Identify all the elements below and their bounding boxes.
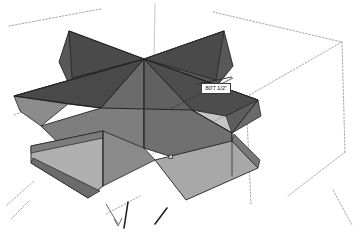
axis-stub-blue: [124, 202, 128, 228]
guide-segment-lower-left: [7, 181, 34, 205]
guide-segment-top-left: [9, 9, 101, 26]
model-canvas[interactable]: [0, 0, 361, 235]
axis-stub-green-arrow: [106, 204, 118, 224]
measurement-readout-box[interactable]: 80'7 1/2": [201, 83, 231, 94]
axis-stub-vertical-top: [154, 3, 155, 62]
guide-segment-right-vertical: [342, 42, 345, 152]
guide-segment-bottom-center: [106, 196, 140, 214]
endpoint-marker[interactable]: [169, 155, 173, 159]
guide-segment-far-right-stub: [333, 190, 352, 225]
guide-segment-bottom-right: [288, 152, 345, 196]
guide-segment-top-right: [213, 12, 342, 42]
guide-segment-diagonal-upper: [246, 42, 342, 97]
guide-segment-lower-left-2: [11, 200, 30, 219]
axis-stub-red: [155, 208, 167, 224]
modeling-viewport[interactable]: 80'7 1/2": [0, 0, 361, 235]
axis-stubs: [124, 202, 167, 228]
